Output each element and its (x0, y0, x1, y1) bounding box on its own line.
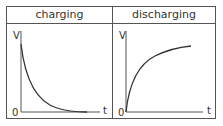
decay-curve (21, 44, 87, 112)
panel-charging: charging V 0 t (7, 7, 113, 118)
x-axis-label: t (103, 105, 107, 116)
x-axis-label: t (207, 105, 211, 116)
diagram-frame: charging V 0 t discharging V 0 t (6, 6, 216, 119)
panel-title: charging (7, 7, 112, 24)
discharging-graph: V 0 t (113, 24, 214, 120)
y-axis-label: V (13, 30, 20, 41)
panel-title: discharging (113, 7, 215, 24)
panel-discharging: discharging V 0 t (113, 7, 215, 118)
charging-graph: V 0 t (7, 24, 112, 120)
rise-curve (126, 46, 191, 112)
origin-label: 0 (12, 107, 18, 118)
y-axis-label: V (119, 30, 126, 41)
origin-label: 0 (118, 107, 124, 118)
